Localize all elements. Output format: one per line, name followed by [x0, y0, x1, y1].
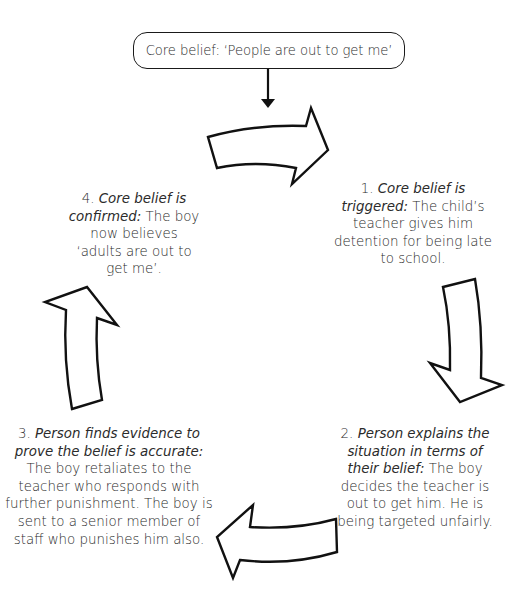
cycle-arrow-left — [217, 505, 337, 578]
step-number: 4. — [82, 191, 95, 206]
step-1-text: 1. Core belief is triggered: The child’s… — [334, 180, 492, 268]
step-body: The boy retaliates to the teacher who re… — [5, 461, 212, 546]
cycle-arrow-up — [45, 287, 117, 409]
step-3-text: 3. Person finds evidence to prove the be… — [4, 425, 214, 548]
cycle-arrow-down — [430, 279, 502, 402]
step-4-text: 4. Core belief is confirmed: The boy now… — [66, 190, 202, 278]
core-belief-text: Core belief: ‘People are out to get me’ — [146, 43, 393, 58]
step-number: 1. — [361, 181, 374, 196]
step-number: 3. — [18, 426, 31, 441]
step-number: 2. — [341, 426, 354, 441]
cycle-arrow-right — [208, 108, 328, 184]
step-title: Person finds evidence to prove the belie… — [15, 426, 203, 459]
core-belief-box: Core belief: ‘People are out to get me’ — [133, 32, 405, 69]
step-2-text: 2. Person explains the situation in term… — [332, 425, 498, 531]
connector-arrowhead-icon — [261, 99, 275, 108]
